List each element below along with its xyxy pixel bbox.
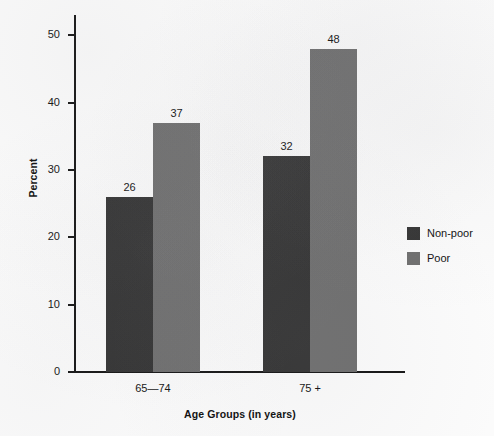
plot-area: 26373248 xyxy=(75,15,405,372)
bar-non-poor-1[interactable] xyxy=(106,197,153,372)
bar-poor-2[interactable] xyxy=(310,49,357,372)
bar-non-poor-2[interactable] xyxy=(263,156,310,372)
legend-swatch-icon xyxy=(407,252,420,265)
x-axis-title: Age Groups (in years) xyxy=(75,408,405,420)
y-axis-tick-mark xyxy=(68,102,74,104)
legend-label: Poor xyxy=(427,253,450,264)
bar-value-label: 32 xyxy=(263,141,310,152)
y-axis-tick-label: 40 xyxy=(26,97,60,108)
grouped-bar-chart: 01020304050 Percent 26373248 65—7475 + A… xyxy=(0,0,494,436)
legend-label: Non-poor xyxy=(427,228,473,239)
y-axis-tick-label: 50 xyxy=(26,29,60,40)
y-axis-tick-mark xyxy=(68,34,74,36)
legend-item-poor[interactable]: Poor xyxy=(407,251,473,265)
y-axis-tick-mark xyxy=(68,169,74,171)
legend-swatch-icon xyxy=(407,227,420,240)
y-axis-tick-mark xyxy=(68,236,74,238)
legend-item-non-poor[interactable]: Non-poor xyxy=(407,226,473,240)
y-axis-tick-label: 10 xyxy=(26,299,60,310)
y-axis-tick-label: 0 xyxy=(26,366,60,377)
chart-legend: Non-poorPoor xyxy=(407,226,473,276)
x-axis-category-label: 75 + xyxy=(250,382,370,394)
bar-value-label: 48 xyxy=(310,34,357,45)
y-axis-tick-mark xyxy=(68,304,74,306)
y-axis-title: Percent xyxy=(27,143,39,213)
y-axis-tick-mark xyxy=(68,371,74,373)
bar-poor-1[interactable] xyxy=(153,123,200,372)
x-axis-category-label: 65—74 xyxy=(93,382,213,394)
bar-value-label: 26 xyxy=(106,182,153,193)
y-axis-tick-label: 20 xyxy=(26,231,60,242)
bar-value-label: 37 xyxy=(153,108,200,119)
